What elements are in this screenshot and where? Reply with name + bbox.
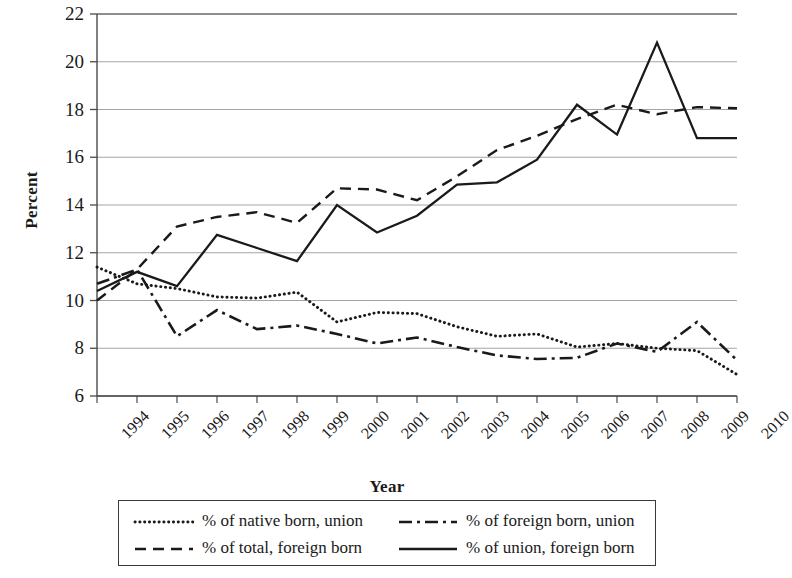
legend-item: % of union, foreign born bbox=[397, 534, 635, 562]
legend-label: % of foreign born, union bbox=[466, 511, 635, 531]
y-tick-label: 12 bbox=[40, 243, 84, 262]
y-tick-label: 18 bbox=[40, 100, 84, 119]
y-tick-label: 22 bbox=[40, 4, 84, 23]
y-tick-label: 8 bbox=[40, 338, 84, 357]
legend-label: % of total, foreign born bbox=[202, 538, 362, 558]
legend-swatch-dashed-icon bbox=[133, 540, 195, 556]
legend-item: % of total, foreign born bbox=[133, 534, 362, 562]
y-tick-label: 10 bbox=[40, 291, 84, 310]
y-tick-label: 20 bbox=[40, 52, 84, 71]
legend-item: % of native born, union bbox=[133, 507, 363, 535]
y-tick-label: 16 bbox=[40, 147, 84, 166]
series-line-3 bbox=[97, 43, 737, 291]
legend-label: % of native born, union bbox=[202, 511, 363, 531]
y-tick-label: 6 bbox=[40, 386, 84, 405]
series-line-0 bbox=[97, 267, 737, 374]
legend-swatch-dotted-icon bbox=[133, 513, 195, 529]
legend-swatch-dashdot-icon bbox=[397, 513, 459, 529]
chart-legend: % of native born, union% of foreign born… bbox=[118, 500, 656, 566]
legend-swatch-solid-icon bbox=[397, 540, 459, 556]
legend-label: % of union, foreign born bbox=[466, 538, 635, 558]
series-line-2 bbox=[97, 105, 737, 301]
legend-item: % of foreign born, union bbox=[397, 507, 635, 535]
y-tick-label: 14 bbox=[40, 195, 84, 214]
